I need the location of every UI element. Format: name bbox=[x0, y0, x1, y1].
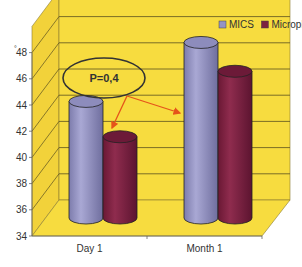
bar-microphaco-month-1 bbox=[218, 65, 252, 224]
bar-mics-month-1 bbox=[184, 36, 218, 224]
legend-swatch-microphaco bbox=[261, 21, 268, 28]
legend-label-microphaco: Microphaco bbox=[271, 19, 302, 30]
x-tick-label: Month 1 bbox=[186, 243, 223, 254]
bar-mics-day-1 bbox=[69, 95, 103, 224]
legend-swatch-mics bbox=[219, 21, 226, 28]
bar-top bbox=[184, 36, 218, 48]
y-tick-label: 40 bbox=[16, 152, 28, 163]
bar-body bbox=[184, 42, 218, 224]
axis-mark: ° bbox=[14, 45, 17, 52]
bar-microphaco-day-1 bbox=[103, 131, 137, 224]
chart: 3436384042444648°Day 1Month 1 MICSMicrop… bbox=[0, 0, 302, 267]
bar-body bbox=[218, 71, 252, 224]
bar-top bbox=[103, 131, 137, 143]
side-wall bbox=[32, 0, 59, 236]
y-tick-label: 44 bbox=[16, 100, 28, 111]
x-tick-label: Day 1 bbox=[76, 243, 103, 254]
annotation-text: P=0,4 bbox=[89, 72, 119, 84]
y-tick-label: 34 bbox=[16, 231, 28, 242]
bar-body bbox=[69, 101, 103, 224]
y-tick-label: 38 bbox=[16, 178, 28, 189]
bar-top bbox=[218, 65, 252, 77]
y-tick-label: 36 bbox=[16, 204, 28, 215]
y-tick-label: 46 bbox=[16, 73, 28, 84]
y-tick-label: 42 bbox=[16, 126, 28, 137]
legend-label-mics: MICS bbox=[229, 19, 254, 30]
y-tick-label: 48 bbox=[16, 47, 28, 58]
bar-body bbox=[103, 137, 137, 224]
